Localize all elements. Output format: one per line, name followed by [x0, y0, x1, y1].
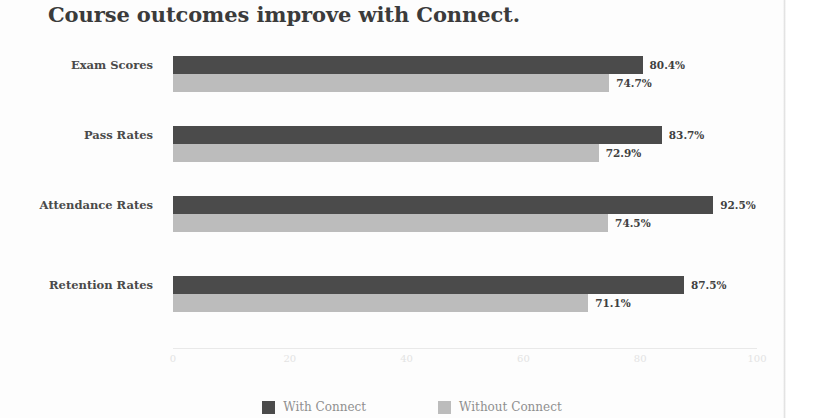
x-tick-label: 60: [517, 353, 530, 364]
legend-swatch-icon: [438, 401, 451, 414]
x-tick-label: 80: [634, 353, 647, 364]
bar-without-connect: [173, 74, 609, 92]
bar-group: 83.7%72.9%: [173, 126, 757, 162]
bar-value-label: 83.7%: [669, 126, 705, 144]
bar-value-label: 74.7%: [616, 74, 652, 92]
legend-label: Without Connect: [459, 400, 562, 414]
category-label: Pass Rates: [84, 128, 153, 142]
chart-title: Course outcomes improve with Connect.: [48, 2, 520, 27]
bar-without-connect: [173, 144, 599, 162]
category-axis: Exam ScoresPass RatesAttendance RatesRet…: [0, 42, 165, 348]
bar-with-connect: [173, 56, 643, 74]
legend-label: With Connect: [283, 400, 366, 414]
bar-value-label: 80.4%: [650, 56, 686, 74]
bar-value-label: 74.5%: [615, 214, 651, 232]
plot-area: 80.4%74.7%83.7%72.9%92.5%74.5%87.5%71.1%: [173, 42, 757, 348]
category-label: Retention Rates: [49, 278, 153, 292]
page-margin: [786, 0, 824, 418]
bar-group: 80.4%74.7%: [173, 56, 757, 92]
bar-group: 87.5%71.1%: [173, 276, 757, 312]
bar-without-connect: [173, 214, 608, 232]
legend-item[interactable]: With Connect: [262, 400, 366, 414]
category-label: Exam Scores: [71, 58, 153, 72]
x-axis-line: [173, 348, 757, 349]
x-tick-label: 100: [747, 353, 766, 364]
bar-without-connect: [173, 294, 588, 312]
legend-item[interactable]: Without Connect: [438, 400, 562, 414]
chart-page: Course outcomes improve with Connect. Ex…: [0, 0, 824, 418]
bar-group: 92.5%74.5%: [173, 196, 757, 232]
category-label: Attendance Rates: [39, 198, 153, 212]
x-tick-label: 0: [170, 353, 176, 364]
bar-with-connect: [173, 276, 684, 294]
x-tick-label: 20: [283, 353, 296, 364]
bar-value-label: 87.5%: [691, 276, 727, 294]
legend-swatch-icon: [262, 401, 275, 414]
bar-with-connect: [173, 196, 713, 214]
bar-value-label: 72.9%: [606, 144, 642, 162]
bar-value-label: 71.1%: [595, 294, 631, 312]
bar-with-connect: [173, 126, 662, 144]
chart-legend: With ConnectWithout Connect: [0, 400, 824, 414]
page-edge-shadow: [783, 0, 786, 418]
x-tick-label: 40: [400, 353, 413, 364]
bar-value-label: 92.5%: [720, 196, 756, 214]
